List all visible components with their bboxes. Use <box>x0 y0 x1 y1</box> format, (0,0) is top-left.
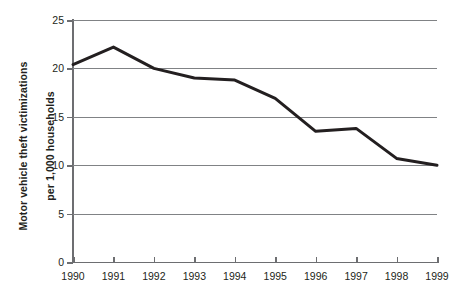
y-tick-label-15: 15 <box>52 111 64 123</box>
y-tick-label-5: 5 <box>58 208 64 220</box>
x-tick-mark-1999 <box>437 257 439 263</box>
y-axis-title-line-1: Motor vehicle theft victimizations <box>17 61 31 230</box>
x-tick-label-1999: 1999 <box>425 270 448 282</box>
y-tick-label-0: 0 <box>58 256 64 268</box>
x-tick-label-1990: 1990 <box>61 270 84 282</box>
x-tick-label-1992: 1992 <box>142 270 165 282</box>
series-line-motor-vehicle-theft <box>73 47 437 165</box>
y-tick-label-10: 10 <box>52 159 64 171</box>
x-tick-label-1996: 1996 <box>304 270 327 282</box>
x-tick-label-1993: 1993 <box>183 270 206 282</box>
x-tick-label-1991: 1991 <box>102 270 125 282</box>
line-chart: Motor vehicle theft victimizations per 1… <box>0 0 462 296</box>
y-axis-title-line-2: per 1,000 households <box>44 61 58 230</box>
x-tick-label-1995: 1995 <box>264 270 287 282</box>
x-tick-label-1998: 1998 <box>385 270 408 282</box>
series-layer <box>73 20 437 262</box>
y-axis-title: Motor vehicle theft victimizations per 1… <box>14 11 60 281</box>
x-tick-label-1997: 1997 <box>344 270 367 282</box>
plot-area: 0510152025 19901991199219931994199519961… <box>73 20 437 262</box>
x-tick-label-1994: 1994 <box>223 270 246 282</box>
y-tick-label-25: 25 <box>52 14 64 26</box>
y-tick-label-20: 20 <box>52 62 64 74</box>
